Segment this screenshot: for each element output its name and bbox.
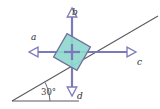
vector-a-arrowhead (29, 47, 38, 57)
vector-label-b: b (72, 8, 78, 17)
vector-d-arrowhead (67, 87, 77, 96)
vector-label-a: a (31, 33, 36, 42)
vector-c-arrowhead (127, 47, 136, 57)
vector-label-c: c (137, 58, 142, 67)
force-diagram-figure: a b c d 30° (0, 0, 160, 109)
incline-angle-label: 30° (41, 88, 56, 97)
vector-label-d: d (77, 92, 83, 101)
